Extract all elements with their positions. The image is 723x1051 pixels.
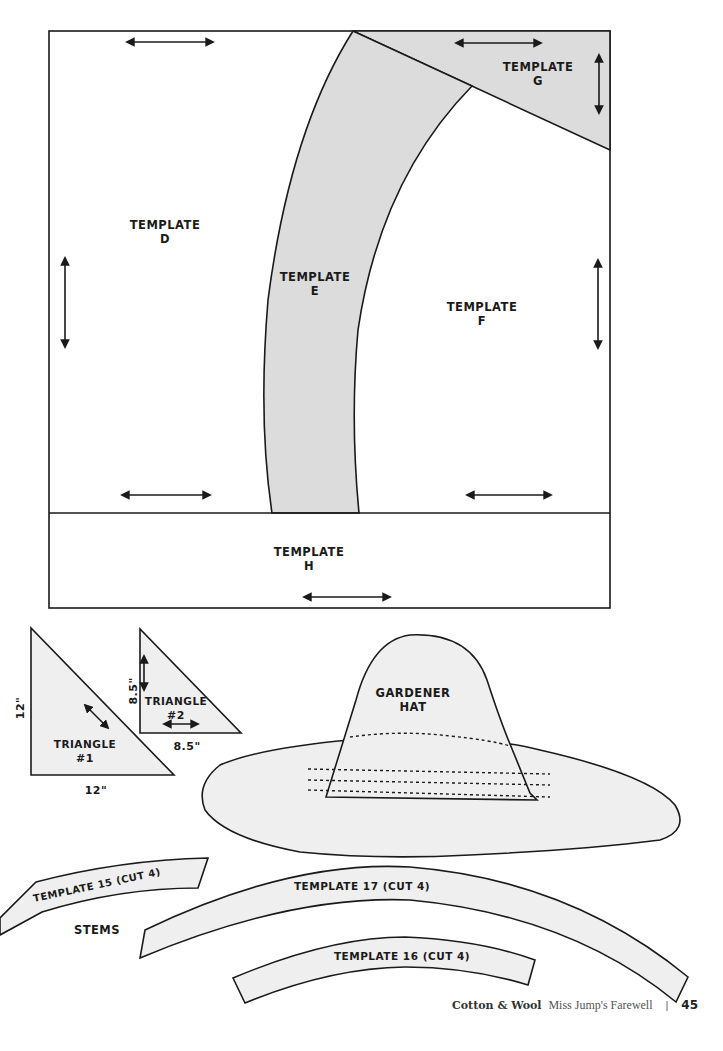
template-e-label: TEMPLATE xyxy=(280,270,351,284)
pattern-page: TEMPLATE G TEMPLATE D TEMPLATE E TEMPLAT… xyxy=(0,0,723,1051)
triangle-1-label: TRIANGLE xyxy=(54,738,117,750)
template-d-label: TEMPLATE xyxy=(130,218,201,232)
page-number: 45 xyxy=(681,998,698,1012)
template-g-label: TEMPLATE xyxy=(503,60,574,74)
stems-group: TEMPLATE 15 (CUT 4) TEMPLATE 17 (CUT 4) … xyxy=(0,858,688,1003)
footer-title: Miss Jump's Farewell xyxy=(548,998,652,1012)
triangle-2-shape xyxy=(140,629,241,733)
triangle-2-label: TRIANGLE xyxy=(145,695,208,707)
template-h-letter: H xyxy=(304,559,314,573)
hat-crown-shape xyxy=(326,635,537,800)
hat-label-line2: HAT xyxy=(400,700,427,714)
template-e-letter: E xyxy=(311,284,319,298)
triangle-2-number: #2 xyxy=(167,709,185,722)
template-16-shape xyxy=(233,937,535,1003)
triangle-1-base-dim: 12" xyxy=(85,784,108,797)
template-d-letter: D xyxy=(160,232,170,246)
template-17-label: TEMPLATE 17 (CUT 4) xyxy=(294,880,430,892)
stems-label: STEMS xyxy=(74,923,120,937)
template-16-label: TEMPLATE 16 (CUT 4) xyxy=(334,950,470,962)
template-f-letter: F xyxy=(478,314,486,328)
template-f-label: TEMPLATE xyxy=(447,300,518,314)
footer-brand: Cotton & Wool xyxy=(452,999,542,1012)
quilt-block-diagram: TEMPLATE G TEMPLATE D TEMPLATE E TEMPLAT… xyxy=(49,31,610,608)
triangle-1-number: #1 xyxy=(76,752,94,765)
template-g-letter: G xyxy=(533,74,543,88)
template-h-label: TEMPLATE xyxy=(274,545,345,559)
triangle-2-piece: TRIANGLE #2 8.5" 8.5" xyxy=(127,629,241,753)
page-footer: Cotton & Wool Miss Jump's Farewell | 45 xyxy=(452,998,698,1013)
hat-label: GARDENER xyxy=(376,686,451,700)
triangle-1-side-dim: 12" xyxy=(14,697,27,720)
footer-separator: | xyxy=(665,999,668,1011)
triangle-2-base-dim: 8.5" xyxy=(173,740,200,753)
gardener-hat-piece: GARDENER HAT xyxy=(202,635,680,857)
triangle-2-side-dim: 8.5" xyxy=(127,677,140,704)
